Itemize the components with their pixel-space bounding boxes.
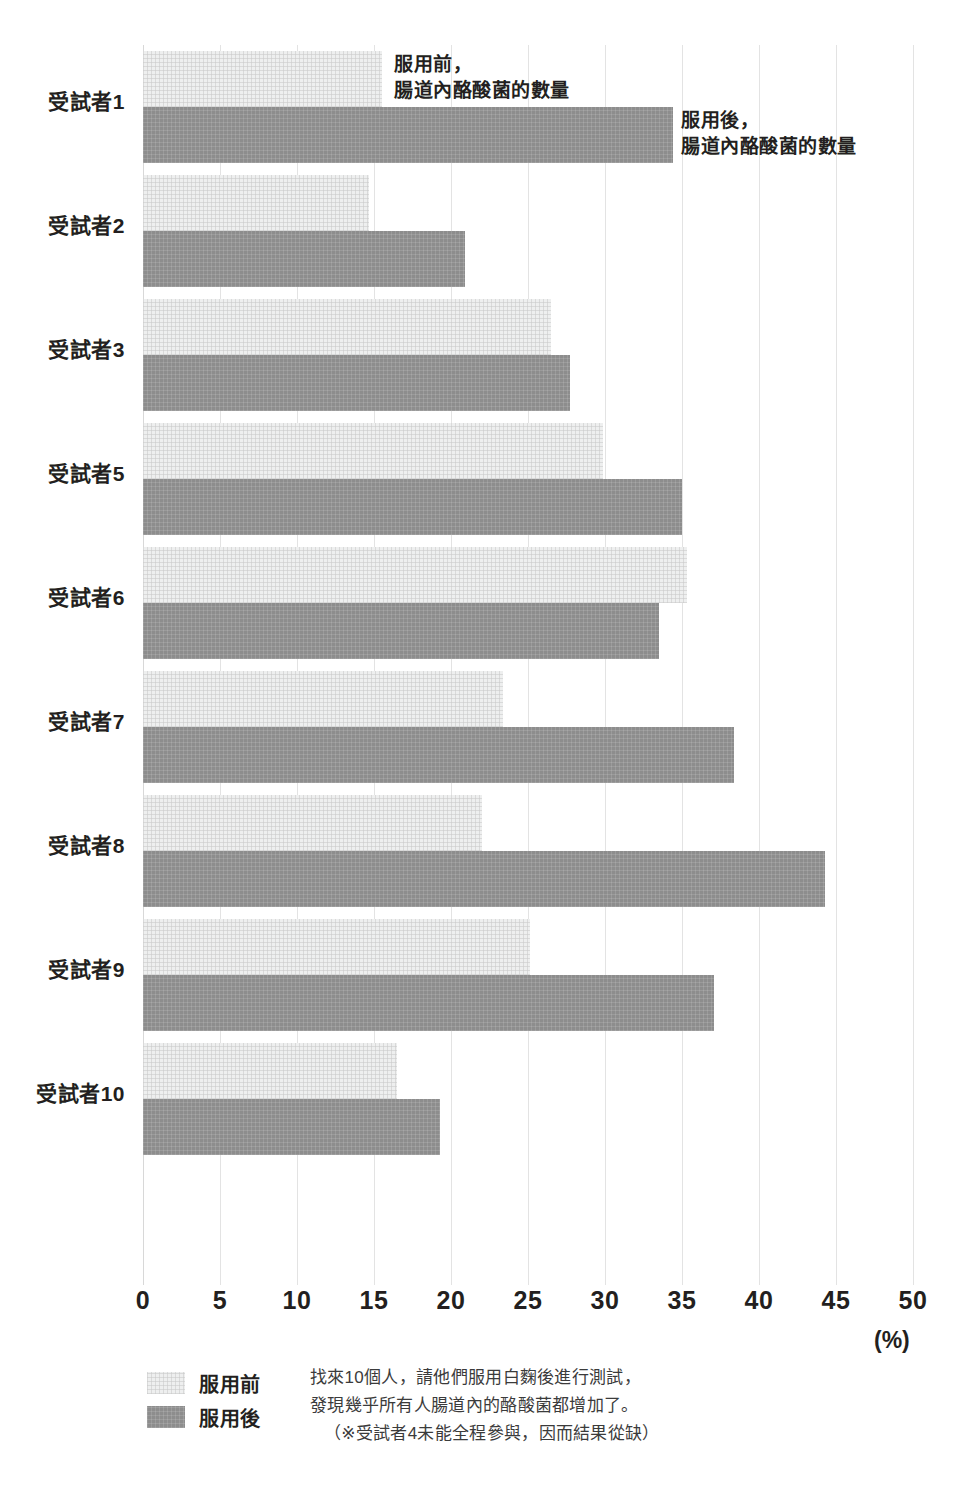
x-axis-tick-label: 5 (213, 1286, 227, 1315)
bar-before (143, 919, 530, 975)
x-axis-tick-label: 10 (283, 1286, 312, 1315)
bar-before (143, 299, 551, 355)
legend-swatch-after-icon (147, 1406, 185, 1428)
annotation-before-label: 服用前， 腸道內酪酸菌的數量 (394, 52, 570, 103)
bar-group: 受試者6 (143, 541, 913, 665)
bar-before (143, 795, 482, 851)
category-label: 受試者8 (0, 829, 125, 859)
footnote: 找來10個人，請他們服用白麴後進行測試， 發現幾乎所有人腸道內的酪酸菌都增加了。… (310, 1364, 660, 1448)
category-label: 受試者10 (0, 1077, 125, 1107)
legend: 服用前 服用後 (147, 1366, 261, 1434)
x-axis-tick-label: 50 (899, 1286, 928, 1315)
bar-after (143, 231, 465, 287)
bar-group: 受試者9 (143, 913, 913, 1037)
bar-group: 受試者2 (143, 169, 913, 293)
bar-after (143, 975, 714, 1031)
bar-group: 受試者3 (143, 293, 913, 417)
bar-group: 受試者7 (143, 665, 913, 789)
x-axis-tick-label: 0 (136, 1286, 150, 1315)
bar-chart: 受試者1受試者2受試者3受試者5受試者6受試者7受試者8受試者9受試者10 服用… (0, 0, 971, 1511)
bar-before (143, 1043, 397, 1099)
x-axis-tick-label: 40 (745, 1286, 774, 1315)
footnote-line-1: 找來10個人，請他們服用白麴後進行測試， (310, 1364, 660, 1392)
bar-before (143, 175, 369, 231)
category-label: 受試者1 (0, 85, 125, 115)
bar-before (143, 547, 687, 603)
legend-item-after: 服用後 (147, 1400, 261, 1434)
x-axis-tick-label: 20 (437, 1286, 466, 1315)
legend-label-before: 服用前 (199, 1369, 261, 1398)
x-axis-unit-label: (%) (874, 1327, 910, 1354)
x-axis-tick-label: 35 (668, 1286, 697, 1315)
bar-after (143, 851, 825, 907)
category-label: 受試者3 (0, 333, 125, 363)
category-label: 受試者9 (0, 953, 125, 983)
bar-before (143, 51, 382, 107)
category-label: 受試者6 (0, 581, 125, 611)
annotation-after-label: 服用後， 腸道內酪酸菌的數量 (681, 108, 857, 159)
bar-group: 受試者10 (143, 1037, 913, 1161)
legend-swatch-before-icon (147, 1372, 185, 1394)
bar-after (143, 727, 734, 783)
bar-rows: 受試者1受試者2受試者3受試者5受試者6受試者7受試者8受試者9受試者10 (143, 45, 913, 1285)
plot-area: 受試者1受試者2受試者3受試者5受試者6受試者7受試者8受試者9受試者10 (143, 45, 913, 1285)
x-axis-tick-label: 45 (822, 1286, 851, 1315)
category-label: 受試者2 (0, 209, 125, 239)
footnote-line-2: 發現幾乎所有人腸道內的酪酸菌都增加了。 (310, 1392, 660, 1420)
bar-group: 受試者8 (143, 789, 913, 913)
x-axis: 05101520253035404550 (143, 1286, 913, 1326)
gridline (913, 45, 914, 1285)
bar-before (143, 671, 503, 727)
x-axis-tick-label: 15 (360, 1286, 389, 1315)
footnote-line-3: （※受試者4未能全程參與，因而結果從缺） (310, 1420, 660, 1448)
category-label: 受試者7 (0, 705, 125, 735)
legend-item-before: 服用前 (147, 1366, 261, 1400)
category-label: 受試者5 (0, 457, 125, 487)
bar-before (143, 423, 603, 479)
bar-after (143, 603, 659, 659)
bar-group: 受試者5 (143, 417, 913, 541)
bar-after (143, 1099, 440, 1155)
legend-label-after: 服用後 (199, 1403, 261, 1432)
x-axis-tick-label: 25 (514, 1286, 543, 1315)
bar-after (143, 107, 673, 163)
bar-after (143, 355, 570, 411)
bar-after (143, 479, 682, 535)
x-axis-tick-label: 30 (591, 1286, 620, 1315)
